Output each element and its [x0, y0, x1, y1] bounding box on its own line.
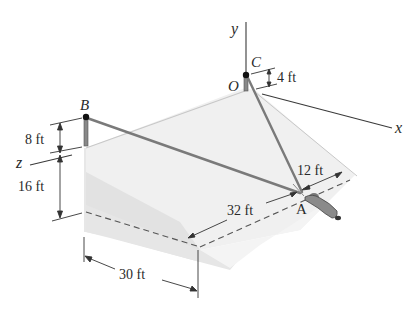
label-point-b: B: [80, 97, 89, 113]
label-axis-x: x: [394, 119, 402, 136]
label-dim-16ft: 16 ft: [18, 179, 44, 194]
arrow-30ft-left: [85, 256, 92, 262]
arrow-16ft-bottom: [58, 211, 63, 218]
diagram-canvas: B C O A y x z 8 ft 16 ft 4 ft 12 ft 32 f…: [0, 0, 418, 318]
arrow-30ft-right: [190, 286, 197, 291]
ext-line-b-top: [50, 118, 82, 125]
z-axis: [30, 155, 72, 165]
label-axis-y: y: [229, 20, 239, 38]
label-dim-8ft: 8 ft: [25, 132, 44, 147]
ext-line-mid: [50, 147, 82, 153]
statics-diagram: B C O A y x z 8 ft 16 ft 4 ft 12 ft 32 f…: [0, 0, 418, 318]
ext-line-bottom: [52, 213, 82, 221]
label-point-c: C: [251, 54, 262, 70]
point-b-dot: [83, 114, 89, 120]
label-dim-4ft: 4 ft: [277, 70, 296, 85]
post-b: [84, 118, 88, 146]
label-point-o: O: [228, 78, 239, 94]
point-c-dot: [243, 72, 249, 78]
ext-line-o: [256, 84, 277, 89]
dim-4ft: [251, 68, 277, 89]
dim-left-vertical: [50, 118, 82, 221]
label-dim-12ft: 12 ft: [297, 163, 323, 178]
worker-foot: [335, 216, 341, 220]
terrain: [85, 88, 357, 270]
label-dim-32ft: 32 ft: [227, 203, 253, 218]
arrow-8ft-bottom: [58, 146, 63, 153]
label-axis-z: z: [15, 154, 23, 171]
label-point-a: A: [296, 201, 307, 217]
label-dim-30ft: 30 ft: [119, 267, 145, 282]
arrow-8ft-top: [58, 123, 63, 130]
